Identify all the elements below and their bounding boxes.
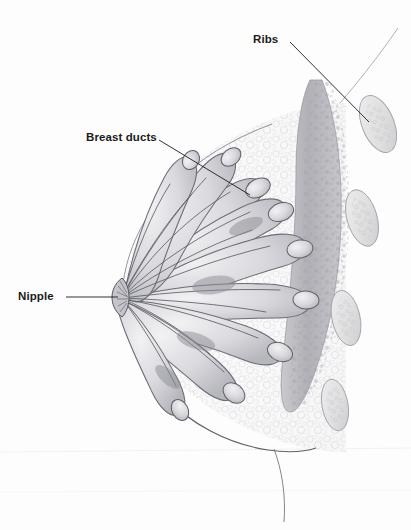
chest-wall-descending-line xyxy=(274,449,285,522)
nipple xyxy=(112,278,129,317)
anatomy-diagram xyxy=(0,0,411,530)
background-artifact-lines xyxy=(0,448,411,492)
label-breast-ducts: Breast ducts xyxy=(86,132,157,144)
rib-cross-section-1 xyxy=(352,90,404,158)
label-ribs: Ribs xyxy=(253,34,278,46)
breast-anatomy-illustration: Ribs Breast ducts Nipple xyxy=(0,0,411,530)
label-nipple: Nipple xyxy=(18,291,54,303)
